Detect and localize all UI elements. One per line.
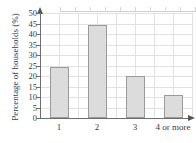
x-tick-label: 3: [133, 121, 138, 133]
bar-3: [126, 76, 145, 118]
y-tick-mark: [36, 13, 41, 14]
x-tick-label: 2: [95, 121, 100, 133]
y-tick-mark: [36, 118, 41, 119]
y-tick-mark: [36, 34, 41, 35]
y-tick-mark: [36, 76, 41, 77]
bar-chart: Percentage of households (%) 05101520253…: [0, 0, 196, 143]
bar-1: [50, 67, 69, 118]
x-tick-label: 1: [57, 121, 62, 133]
figure-crop-ticks: [60, 7, 196, 12]
bar-4-or-more: [164, 95, 183, 118]
y-tick-mark: [36, 24, 41, 25]
x-axis-tick-labels: 1234 or more: [40, 121, 196, 137]
y-tick-mark: [36, 97, 41, 98]
y-tick-mark: [36, 87, 41, 88]
bar-series: [40, 13, 192, 118]
x-axis-line: [40, 118, 190, 119]
y-tick-mark: [36, 55, 41, 56]
bar-2: [88, 25, 107, 118]
x-tick-label: 4 or more: [156, 121, 191, 133]
y-axis-tick-labels: 05101520253035404550: [14, 13, 37, 119]
y-tick-mark: [36, 45, 41, 46]
y-tick-mark: [36, 66, 41, 67]
y-tick-mark: [36, 108, 41, 109]
vertical-gridline: [192, 13, 193, 119]
